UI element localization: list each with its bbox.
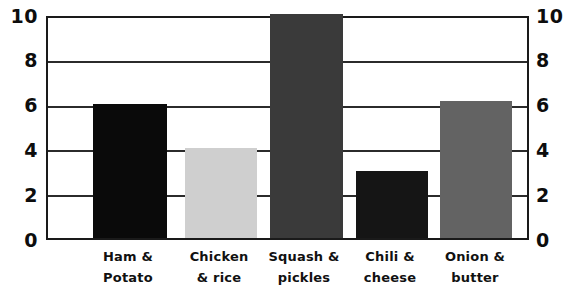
y-tick-right-8: 8: [536, 51, 567, 70]
bar-onion-butter: [440, 101, 512, 238]
x-label-ham-potato: Ham & Potato: [76, 246, 180, 288]
x-label-ham-potato-line2: Potato: [76, 267, 180, 288]
y-tick-right-0: 0: [536, 231, 567, 250]
bar-chicken-rice: [185, 148, 257, 238]
y-tick-right-2: 2: [536, 186, 567, 205]
y-tick-right-4: 4: [536, 141, 567, 160]
x-label-onion-butter-line2: butter: [424, 267, 526, 288]
y-tick-left-6: 6: [2, 96, 38, 115]
plot-area: [46, 16, 529, 240]
y-axis-left: 10 8 6 4 2 0: [2, 0, 38, 292]
bar-squash-pickles: [270, 14, 343, 238]
y-axis-right: 10 8 6 4 2 0: [536, 0, 567, 292]
bar-ham-potato: [93, 104, 167, 238]
y-tick-right-10: 10: [536, 7, 567, 26]
bar-chart: 10 8 6 4 2 0 10 8 6 4 2 0 Ham & Potato: [0, 0, 567, 292]
x-label-onion-butter: Onion & butter: [424, 246, 526, 288]
bar-chili-cheese: [356, 171, 428, 238]
x-label-onion-butter-line1: Onion &: [424, 246, 526, 267]
y-tick-left-0: 0: [2, 231, 38, 250]
y-tick-right-6: 6: [536, 96, 567, 115]
y-tick-left-8: 8: [2, 51, 38, 70]
x-axis-labels: Ham & Potato Chicken & rice Squash & pic…: [46, 246, 529, 292]
y-tick-left-4: 4: [2, 141, 38, 160]
bars-layer: [48, 18, 527, 238]
x-label-ham-potato-line1: Ham &: [76, 246, 180, 267]
y-tick-left-2: 2: [2, 186, 38, 205]
y-tick-left-10: 10: [2, 7, 38, 26]
